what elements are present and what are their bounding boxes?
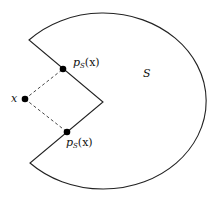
set-label: S bbox=[143, 68, 151, 79]
diagram-svg bbox=[0, 0, 211, 199]
proj-top-p: p bbox=[73, 56, 80, 69]
point-x bbox=[22, 96, 29, 103]
dashed-segment-top bbox=[25, 69, 63, 99]
projection-diagram: S x pS(x) pS(x) bbox=[0, 0, 211, 199]
projection-point-top bbox=[60, 66, 67, 73]
point-label: x bbox=[11, 93, 17, 104]
proj-top-arg: (x) bbox=[85, 56, 100, 69]
projection-label-top: pS(x) bbox=[73, 57, 100, 70]
set-boundary bbox=[29, 13, 206, 189]
projection-point-bottom bbox=[64, 129, 71, 136]
dashed-segment-bottom bbox=[25, 99, 67, 132]
proj-bottom-arg: (x) bbox=[78, 136, 93, 149]
projection-label-bottom: pS(x) bbox=[66, 137, 93, 150]
proj-bottom-p: p bbox=[66, 136, 73, 149]
